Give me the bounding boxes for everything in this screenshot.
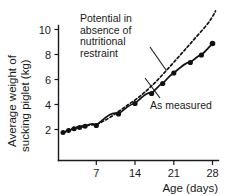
data-point xyxy=(94,123,99,128)
data-point xyxy=(149,91,154,96)
data-point xyxy=(83,124,88,129)
data-point xyxy=(160,81,165,86)
potential-annotation-line-4: restraint xyxy=(80,47,118,59)
data-point xyxy=(199,52,204,57)
potential-annotation-line-1: Potential in xyxy=(80,12,132,24)
y-axis-title-line1: Average weight of xyxy=(6,54,18,147)
x-tick-label-21: 21 xyxy=(168,167,180,179)
piglet-growth-chart: 10 8 6 4 2 7 14 21 28 Age (days) Average… xyxy=(0,0,229,196)
potential-annotation-line-3: nutritional xyxy=(80,35,126,47)
chart-figure: 10 8 6 4 2 7 14 21 28 Age (days) Average… xyxy=(0,0,229,196)
data-point xyxy=(77,125,82,130)
data-point xyxy=(188,60,193,65)
y-tick-label-6: 6 xyxy=(45,74,51,86)
x-axis-tick-labels: 7 14 21 28 xyxy=(93,167,218,179)
data-point xyxy=(210,41,216,47)
y-axis-title: Average weight of sucking piglet (kg) xyxy=(6,54,31,152)
y-axis-tick-labels: 10 8 6 4 2 xyxy=(39,24,51,136)
y-tick-label-8: 8 xyxy=(45,49,51,61)
data-point xyxy=(132,101,137,106)
potential-annotation-leader xyxy=(150,47,166,70)
x-tick-label-28: 28 xyxy=(206,167,218,179)
data-point xyxy=(171,70,176,75)
data-point xyxy=(72,126,77,131)
x-tick-label-7: 7 xyxy=(93,167,99,179)
data-point xyxy=(116,111,121,116)
measured-annotation-label: As measured xyxy=(150,99,212,111)
y-tick-label-10: 10 xyxy=(39,24,51,36)
y-tick-label-4: 4 xyxy=(45,99,51,111)
data-point xyxy=(61,130,66,135)
potential-annotation: Potential in absence of nutritional rest… xyxy=(80,12,132,59)
x-tick-label-14: 14 xyxy=(129,167,141,179)
y-tick-label-2: 2 xyxy=(45,124,51,136)
potential-annotation-line-2: absence of xyxy=(80,24,131,36)
y-axis-title-line2: sucking piglet (kg) xyxy=(19,59,31,152)
data-point xyxy=(66,128,71,133)
x-axis-title: Age (days) xyxy=(162,182,218,194)
